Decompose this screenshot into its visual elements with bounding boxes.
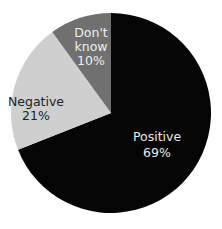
slice-label-dont-know: Don't know 10% [74, 25, 108, 68]
negative-value: 21% [22, 108, 50, 123]
dont-know-label-line1: Don't [74, 25, 108, 40]
positive-label: Positive [133, 129, 181, 144]
negative-label: Negative [8, 94, 64, 109]
dont-know-label-line2: know [74, 39, 107, 54]
positive-value: 69% [143, 145, 171, 160]
pie-chart: Positive 69% Negative 21% Don't know 10% [0, 0, 222, 229]
dont-know-value: 10% [77, 53, 105, 68]
